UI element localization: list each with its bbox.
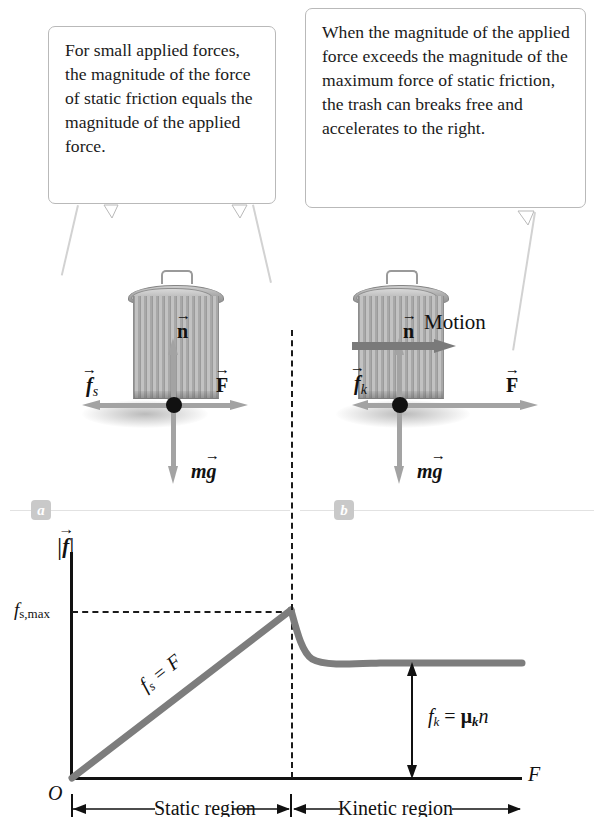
friction-graph: |f| fs,max O F fs = F fk = μkn: [0, 500, 604, 817]
center-of-mass-dot-b: [392, 397, 408, 413]
applied-force-arrow-a: [146, 400, 248, 411]
panel-tag-a: a: [31, 500, 51, 520]
friction-curve: [0, 500, 604, 817]
weight-arrow-a: [168, 406, 179, 484]
static-region-label: Static region: [154, 797, 256, 817]
weight-label-b: mg: [417, 460, 443, 483]
fs-max-tick-label: fs,max: [14, 599, 50, 622]
callout-static-friction: For small applied forces, the magnitude …: [48, 26, 276, 204]
static-friction-label-a: fs: [86, 374, 98, 400]
applied-force-label-a: F: [216, 374, 228, 397]
static-friction-arrow-a: [82, 400, 152, 411]
applied-force-arrow-b: [400, 400, 538, 411]
panel-tag-b: b: [334, 500, 354, 520]
callout-kinetic-friction: When the magnitude of the applied force …: [305, 8, 586, 208]
callout-tails: [0, 196, 604, 316]
y-axis-label: |f|: [57, 532, 74, 562]
x-axis-label: F: [528, 763, 540, 786]
normal-force-label-a: n: [177, 320, 188, 343]
normal-force-arrow-a: [168, 338, 179, 406]
normal-force-label-b: n: [403, 320, 414, 343]
region-brackets: [0, 788, 604, 817]
kinetic-level-label: fk = μkn: [428, 705, 488, 730]
kinetic-region-label: Kinetic region: [338, 797, 453, 817]
weight-label-a: mg: [191, 460, 217, 483]
callout-a-text: For small applied forces, the magnitude …: [65, 40, 253, 156]
applied-force-label-b: F: [506, 374, 518, 397]
panel-divider: [291, 330, 293, 610]
callout-b-text: When the magnitude of the applied force …: [322, 22, 570, 138]
weight-arrow-b: [394, 406, 405, 484]
friction-figure: For small applied forces, the magnitude …: [0, 0, 604, 817]
center-of-mass-dot-a: [166, 397, 182, 413]
kinetic-friction-label-b: fk: [354, 372, 367, 398]
